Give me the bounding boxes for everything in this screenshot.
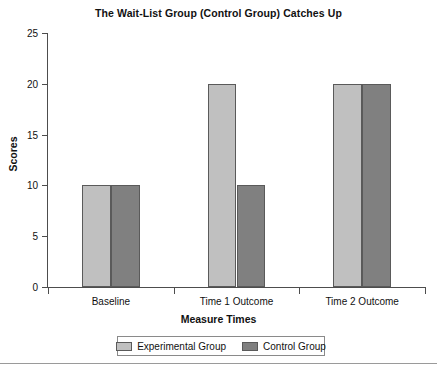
y-axis-tick-0: [42, 287, 47, 288]
y-axis-tick-label-20: 20: [0, 78, 38, 89]
x-axis-tick-0: [48, 288, 49, 294]
x-axis-category-label-1: Time 1 Outcome: [200, 296, 274, 307]
legend-swatch-icon-control: [242, 342, 258, 351]
bar-control-0: [111, 185, 140, 287]
chart-legend: Experimental Group Control Group: [117, 336, 325, 356]
y-axis-tick-label-15: 15: [0, 129, 38, 140]
plot-area: [48, 33, 425, 287]
legend-swatch-icon-experimental: [116, 342, 132, 351]
y-axis-tick-label-5: 5: [0, 231, 38, 242]
y-axis-tick-25: [42, 33, 47, 34]
x-axis-tick-1: [174, 288, 175, 294]
y-axis-tick-label-0: 0: [0, 282, 38, 293]
legend-label-experimental: Experimental Group: [137, 341, 226, 352]
x-axis-category-label-0: Baseline: [92, 296, 130, 307]
y-axis-tick-label-10: 10: [0, 180, 38, 191]
figure-bar-chart: The Wait-List Group (Control Group) Catc…: [0, 0, 437, 376]
legend-label-control: Control Group: [263, 341, 326, 352]
figure-bottom-rule: [0, 363, 437, 364]
y-axis-tick-20: [42, 84, 47, 85]
bar-control-2: [362, 84, 391, 287]
bar-experimental-0: [82, 185, 111, 287]
x-axis-tick-3: [425, 288, 426, 294]
y-axis-title: Scores: [7, 124, 19, 184]
bar-experimental-1: [208, 84, 237, 287]
y-axis-tick-10: [42, 185, 47, 186]
legend-item-experimental: Experimental Group: [116, 341, 226, 352]
x-axis-title: Measure Times: [0, 313, 437, 325]
x-axis-tick-2: [299, 288, 300, 294]
x-axis-category-label-2: Time 2 Outcome: [325, 296, 399, 307]
page-title: The Wait-List Group (Control Group) Catc…: [0, 7, 437, 19]
x-axis-line: [47, 287, 426, 288]
y-axis-tick-15: [42, 135, 47, 136]
y-axis-tick-label-25: 25: [0, 28, 38, 39]
legend-item-control: Control Group: [242, 341, 326, 352]
y-axis-tick-5: [42, 236, 47, 237]
bar-control-1: [237, 185, 266, 287]
bar-experimental-2: [333, 84, 362, 287]
